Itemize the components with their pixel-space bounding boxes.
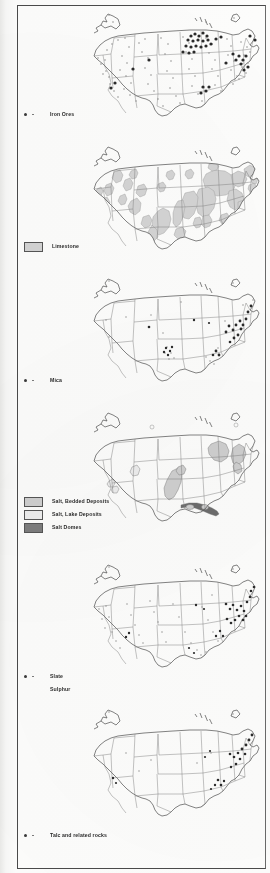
map-talc[interactable] xyxy=(83,701,263,827)
map-panel-talc: Talc and related rocks xyxy=(18,697,265,852)
legend-talc: Talc and related rocks xyxy=(24,830,107,843)
legend-row: Talc and related rocks xyxy=(24,830,107,841)
map-slate-sulphur[interactable] xyxy=(83,557,263,677)
map-panel-iron-ores: Iron Ores xyxy=(18,6,265,139)
map-panel-mica: Mica xyxy=(18,269,265,401)
dot-symbol-icon xyxy=(24,113,41,116)
map-mica[interactable] xyxy=(83,273,263,391)
legend-label: Sulphur xyxy=(50,686,70,693)
legend-label: Salt, Bedded Deposits xyxy=(52,498,109,505)
legend-row: Slate xyxy=(24,671,70,682)
map-panel-salt: Salt, Bedded Deposits Salt, Lake Deposit… xyxy=(18,401,265,551)
color-swatch xyxy=(24,523,43,533)
legend-label: Salt, Lake Deposits xyxy=(52,511,102,518)
legend-slate-sulphur: Slate Sulphur xyxy=(24,671,70,697)
map-iron-ores[interactable] xyxy=(83,8,263,126)
legend-row: Mica xyxy=(24,375,62,386)
dot-symbol-icon xyxy=(24,675,41,678)
legend-row: Salt, Bedded Deposits xyxy=(24,496,109,507)
legend-row: Limestone xyxy=(24,241,79,252)
legend-iron-ores: Iron Ores xyxy=(24,109,74,122)
map-salt[interactable] xyxy=(83,407,263,533)
legend-row: Iron Ores xyxy=(24,109,74,120)
legend-label: Iron Ores xyxy=(50,111,74,118)
map-panels: Iron Ores xyxy=(18,6,265,868)
legend-row: Sulphur xyxy=(24,684,70,695)
map-panel-limestone: Limestone xyxy=(18,139,265,269)
color-swatch xyxy=(24,497,43,507)
map-limestone[interactable] xyxy=(83,141,263,259)
legend-label: Salt Domes xyxy=(52,524,81,531)
legend-mica: Mica xyxy=(24,375,62,388)
legend-label: Mica xyxy=(50,377,62,384)
color-swatch xyxy=(24,242,43,252)
legend-label: Slate xyxy=(50,673,63,680)
legend-limestone: Limestone xyxy=(24,241,79,254)
map-panel-slate-sulphur: Slate Sulphur xyxy=(18,551,265,697)
legend-label: Limestone xyxy=(52,243,79,250)
legend-salt: Salt, Bedded Deposits Salt, Lake Deposit… xyxy=(24,496,109,535)
legend-row: Salt Domes xyxy=(24,522,109,533)
legend-label: Talc and related rocks xyxy=(50,832,107,839)
dot-symbol-icon xyxy=(24,834,41,837)
dot-symbol-icon xyxy=(24,379,41,382)
color-swatch xyxy=(24,510,43,520)
legend-row: Salt, Lake Deposits xyxy=(24,509,109,520)
